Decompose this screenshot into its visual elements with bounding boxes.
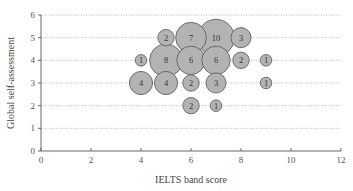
x-axis-title: IELTS band score [155, 174, 227, 185]
bubble-count-label: 1 [264, 55, 268, 65]
bubble: 2 [183, 97, 199, 113]
y-tick-label: 1 [31, 123, 36, 133]
bubble-count-label: 2 [189, 78, 193, 88]
y-tick-label: 3 [31, 78, 36, 88]
x-tick-label: 6 [189, 155, 194, 165]
bubble: 2 [158, 29, 174, 45]
y-tick-label: 5 [31, 33, 36, 43]
bubble-count-label: 2 [164, 33, 168, 43]
bubble-count-label: 3 [239, 33, 243, 43]
x-tick-label: 2 [89, 155, 94, 165]
bubble-count-label: 2 [239, 55, 243, 65]
x-tick-label: 10 [287, 155, 297, 165]
bubble-count-label: 7 [189, 33, 193, 43]
bubble-count-label: 1 [214, 101, 218, 111]
x-tick-label: 8 [239, 155, 244, 165]
bubble: 6 [177, 46, 205, 74]
bubble: 4 [154, 71, 177, 94]
bubble: 1 [135, 55, 147, 67]
bubble-count-label: 2 [189, 101, 193, 111]
bubbles: 108766443322221111 [129, 19, 271, 114]
bubble: 2 [183, 75, 199, 91]
y-tick-label: 2 [31, 101, 36, 111]
bubble-count-label: 6 [214, 55, 218, 65]
bubble-count-label: 10 [212, 33, 221, 43]
y-tick-label: 6 [31, 10, 36, 20]
bubble: 1 [260, 77, 272, 89]
bubble: 3 [206, 73, 226, 93]
y-axis-title: Global self-assessment [5, 37, 16, 129]
bubble-count-label: 1 [264, 78, 268, 88]
bubble-count-label: 1 [139, 55, 143, 65]
y-tick-label: 4 [31, 55, 36, 65]
bubble-count-label: 6 [189, 55, 193, 65]
bubble-chart: 0123456024681012 108766443322221111 IELT… [0, 0, 353, 191]
x-tick-label: 0 [39, 155, 44, 165]
bubble-count-label: 8 [164, 55, 168, 65]
bubble: 1 [210, 100, 222, 112]
x-tick-label: 4 [139, 155, 144, 165]
bubble: 6 [202, 46, 230, 74]
bubble: 1 [260, 55, 272, 67]
bubble: 3 [231, 28, 251, 48]
bubble-count-label: 3 [214, 78, 218, 88]
bubble: 4 [129, 71, 152, 94]
bubble: 2 [233, 52, 249, 68]
y-tick-label: 0 [31, 146, 36, 156]
x-tick-label: 12 [337, 155, 346, 165]
